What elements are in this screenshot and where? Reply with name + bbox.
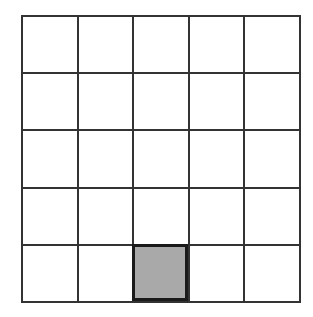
grid-cell-r3-c4[interactable] bbox=[245, 189, 301, 246]
grid-cell-r1-c2[interactable] bbox=[134, 74, 190, 131]
grid-cell-r1-c0[interactable] bbox=[23, 74, 79, 131]
grid-cell-r2-c4[interactable] bbox=[245, 131, 301, 188]
grid-cell-r3-c0[interactable] bbox=[23, 189, 79, 246]
grid-cell-r0-c4[interactable] bbox=[245, 17, 301, 74]
grid-cell-r3-c1[interactable] bbox=[79, 189, 135, 246]
grid-board bbox=[21, 15, 301, 303]
grid-cell-r4-c2-selected[interactable] bbox=[134, 246, 190, 303]
grid-cell-r0-c3[interactable] bbox=[190, 17, 246, 74]
grid-cell-r1-c1[interactable] bbox=[79, 74, 135, 131]
grid-cell-r4-c0[interactable] bbox=[23, 246, 79, 303]
grid-cell-r2-c0[interactable] bbox=[23, 131, 79, 188]
grid-cell-r2-c3[interactable] bbox=[190, 131, 246, 188]
grid-cell-r1-c4[interactable] bbox=[245, 74, 301, 131]
grid-cell-r0-c0[interactable] bbox=[23, 17, 79, 74]
grid-cell-r4-c3[interactable] bbox=[190, 246, 246, 303]
grid-cell-r0-c1[interactable] bbox=[79, 17, 135, 74]
grid-cell-r4-c1[interactable] bbox=[79, 246, 135, 303]
grid-cell-r3-c3[interactable] bbox=[190, 189, 246, 246]
grid-cell-r2-c1[interactable] bbox=[79, 131, 135, 188]
selected-cell-highlight bbox=[132, 244, 188, 301]
grid-cell-r4-c4[interactable] bbox=[245, 246, 301, 303]
grid-cell-r1-c3[interactable] bbox=[190, 74, 246, 131]
grid-cell-r3-c2[interactable] bbox=[134, 189, 190, 246]
grid-cell-r2-c2[interactable] bbox=[134, 131, 190, 188]
grid-cell-r0-c2[interactable] bbox=[134, 17, 190, 74]
